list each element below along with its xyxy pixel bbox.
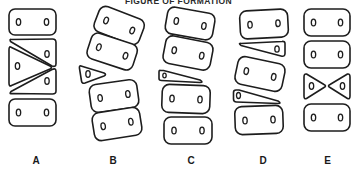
option-e-shapes bbox=[298, 0, 357, 152]
rounded-rectangle-tilted bbox=[234, 55, 287, 92]
triangle-pointing-left bbox=[329, 74, 351, 99]
rounded-rectangle-top bbox=[9, 9, 56, 35]
option-a-shapes bbox=[0, 0, 72, 152]
option-c[interactable]: C bbox=[154, 0, 228, 170]
option-d-shapes bbox=[228, 0, 298, 152]
option-d[interactable]: D bbox=[228, 0, 298, 170]
thin-sliver-wedge bbox=[159, 70, 202, 82]
option-c-label: C bbox=[154, 155, 228, 166]
rounded-rectangle-3 bbox=[304, 104, 350, 131]
thin-wedge-lower bbox=[234, 90, 281, 104]
option-b[interactable]: B bbox=[72, 0, 154, 170]
rounded-rectangle-3 bbox=[162, 84, 211, 114]
small-triangle-left bbox=[79, 66, 105, 83]
rounded-rectangle-1 bbox=[304, 9, 350, 36]
rounded-rectangle-4 bbox=[164, 117, 212, 144]
option-c-shapes bbox=[154, 0, 228, 152]
option-e[interactable]: E bbox=[298, 0, 357, 170]
option-a-label: A bbox=[0, 155, 72, 166]
triangle-pointing-right bbox=[304, 74, 326, 99]
option-d-label: D bbox=[228, 155, 298, 166]
option-b-shapes bbox=[72, 0, 154, 152]
figure-of-formation-diagram: FIGURE OF FORMATION bbox=[0, 0, 357, 170]
option-b-label: B bbox=[72, 155, 154, 166]
rounded-rectangle-bottom bbox=[235, 105, 284, 135]
rounded-rectangle-bottom bbox=[9, 99, 56, 126]
thin-wedge-upper bbox=[240, 41, 286, 56]
rounded-rectangle-top bbox=[239, 9, 288, 39]
option-a[interactable]: A bbox=[0, 0, 72, 170]
rounded-rectangle-2 bbox=[304, 41, 350, 68]
option-e-label: E bbox=[298, 155, 357, 166]
